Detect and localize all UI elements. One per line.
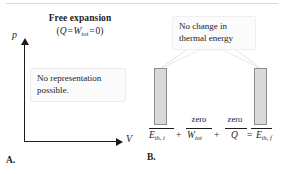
equation-operator-1: = bbox=[67, 26, 72, 36]
no-representation-line-2: possible. bbox=[37, 85, 119, 97]
no-representation-line-1: No representation bbox=[37, 73, 119, 85]
panel-a-equation: (Q = Wtot = 0) bbox=[28, 25, 132, 40]
no-change-callout: No change in thermal energy bbox=[172, 16, 256, 50]
bar-thermal-energy-initial bbox=[154, 68, 167, 125]
volume-axis-arrow-icon bbox=[116, 138, 123, 146]
term-thermal-energy-initial: Eth, i bbox=[149, 130, 165, 141]
no-change-line-1: No change in bbox=[179, 21, 249, 33]
symbol-w-subscript: tot bbox=[82, 30, 89, 37]
term-work-symbol: W bbox=[187, 130, 195, 140]
term-initial-subscript: th, i bbox=[155, 134, 165, 141]
panel-b-label: B. bbox=[147, 152, 156, 162]
volume-axis-label: V bbox=[126, 133, 132, 144]
term-work-subscript: tot bbox=[195, 134, 202, 141]
operator-plus-2: + bbox=[214, 130, 219, 140]
no-change-line-2: thermal energy bbox=[179, 33, 249, 45]
free-expansion-figure: Free expansion (Q = Wtot = 0) p V No rep… bbox=[0, 0, 283, 174]
panel-a-label: A. bbox=[6, 155, 15, 165]
symbol-q: Q bbox=[60, 26, 67, 36]
term-total-work: Wtot bbox=[187, 130, 202, 141]
operator-plus-1: + bbox=[176, 130, 181, 140]
panel-a-title: Free expansion bbox=[28, 12, 132, 24]
term-thermal-energy-final: Eth, f bbox=[256, 130, 272, 141]
paren-close: ) bbox=[100, 26, 103, 36]
zero-label-heat: zero bbox=[220, 114, 250, 124]
term-final-subscript: th, f bbox=[262, 134, 272, 141]
no-representation-callout: No representation possible. bbox=[30, 68, 126, 102]
term-heat: Q bbox=[231, 130, 238, 140]
pressure-axis-line bbox=[24, 44, 25, 142]
volume-axis-line bbox=[24, 141, 118, 142]
pressure-axis-arrow-icon bbox=[21, 38, 29, 45]
equation-operator-2: = bbox=[89, 26, 94, 36]
symbol-w: W bbox=[74, 26, 82, 36]
pressure-axis-label: p bbox=[12, 29, 17, 40]
panel-a: Free expansion (Q = Wtot = 0) p V No rep… bbox=[0, 0, 141, 174]
panel-b: No change in thermal energy zero zero Et… bbox=[141, 0, 283, 174]
zero-label-work: zero bbox=[184, 114, 214, 124]
operator-equals: = bbox=[247, 130, 252, 140]
bar-thermal-energy-final bbox=[254, 68, 267, 125]
